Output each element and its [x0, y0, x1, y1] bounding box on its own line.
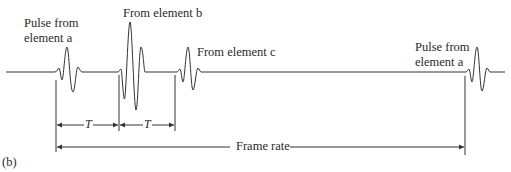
- interval-t2-label: T: [143, 117, 152, 132]
- label-element-c: From element c: [197, 45, 275, 60]
- label-line: element a: [415, 55, 470, 70]
- label-element-b: From element b: [123, 6, 202, 21]
- panel-label: (b): [2, 155, 17, 170]
- label-line: Pulse from: [415, 40, 470, 55]
- label-pulse-a-right: Pulse from element a: [415, 40, 470, 70]
- label-pulse-a-left: Pulse from element a: [24, 16, 79, 46]
- frame-rate-label: Frame rate: [236, 139, 290, 154]
- label-line: element a: [24, 31, 79, 46]
- interval-t1-label: T: [84, 117, 93, 132]
- label-line: Pulse from: [24, 16, 79, 31]
